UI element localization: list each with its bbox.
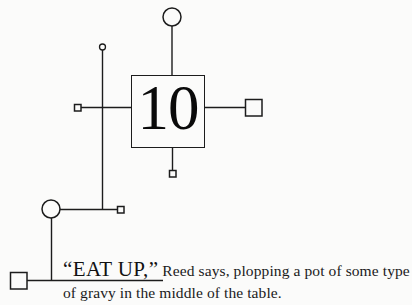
- narration-text-line-one: Reed says, plopping a pot of some type: [158, 262, 409, 279]
- narration-text-line-two: of gravy in the middle of the table.: [63, 284, 282, 301]
- caption-line-two: of gravy in the middle of the table.: [63, 284, 282, 302]
- caption-layer: “EAT UP,” Reed says, plopping a pot of s…: [0, 0, 412, 305]
- page-root: 10 “EAT UP,” Reed says, plopping a pot o…: [0, 0, 412, 305]
- caption-line-one: “EAT UP,” Reed says, plopping a pot of s…: [63, 257, 410, 282]
- shout-text: “EAT UP,”: [63, 257, 158, 281]
